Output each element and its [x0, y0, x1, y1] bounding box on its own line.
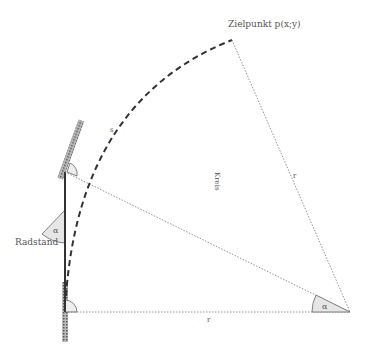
center-angle-wedge	[312, 295, 350, 312]
center-angle-label: α	[322, 302, 328, 311]
steering-angle-label: α	[53, 226, 59, 235]
radius-bottom-label: r	[207, 316, 211, 324]
right-angle-mark-rear	[65, 300, 77, 312]
target-point-label: Zielpunkt p(x;y)	[228, 19, 301, 29]
radius-right-label: r	[293, 172, 297, 180]
arc-label: s	[110, 126, 114, 134]
driving-arc	[66, 40, 232, 296]
steering-geometry-diagram: α α Zielpunkt p(x;y) Radstand r r s Krei…	[0, 0, 379, 354]
radius-front-line	[65, 172, 350, 312]
wheelbase-label: Radstand	[15, 237, 59, 247]
radius-target-line	[232, 40, 350, 312]
center-faint-label: Kreis	[213, 172, 221, 191]
